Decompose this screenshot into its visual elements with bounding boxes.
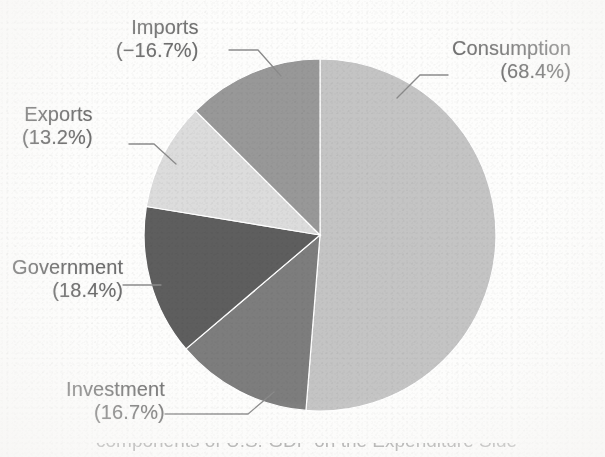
figure-caption-cropped: components of U.S. GDP on the Expenditur…	[96, 443, 516, 457]
pie-label-consumption-name: Consumption	[452, 37, 571, 59]
pie-slices	[144, 59, 496, 411]
pie-slice-consumption[interactable]	[306, 59, 496, 411]
pie-label-investment-name: Investment	[66, 378, 165, 400]
pie-label-government: Government (18.4%)	[12, 256, 123, 302]
pie-label-consumption-value: (68.4%)	[452, 60, 571, 83]
pie-label-exports-name: Exports	[24, 103, 93, 125]
pie-label-imports: Imports (−16.7%)	[116, 16, 199, 62]
figure-canvas: Imports (−16.7%) Consumption (68.4%) Exp…	[0, 0, 605, 457]
pie-label-exports: Exports (13.2%)	[22, 103, 93, 149]
pie-label-government-name: Government	[12, 256, 123, 278]
pie-label-investment: Investment (16.7%)	[66, 378, 165, 424]
pie-label-investment-value: (16.7%)	[66, 401, 165, 424]
pie-label-consumption: Consumption (68.4%)	[452, 37, 571, 83]
pie-label-exports-value: (13.2%)	[22, 126, 93, 149]
figure-caption-text: components of U.S. GDP on the Expenditur…	[96, 443, 516, 452]
pie-label-imports-name: Imports	[131, 16, 198, 38]
pie-label-government-value: (18.4%)	[12, 279, 123, 302]
pie-label-imports-value: (−16.7%)	[116, 39, 199, 62]
